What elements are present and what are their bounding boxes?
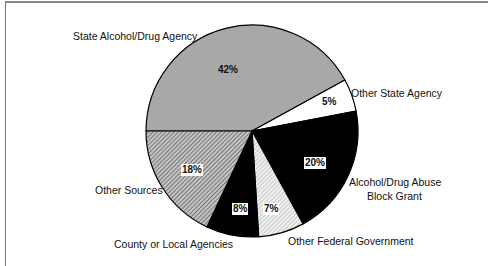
label-county-local: County or Local Agencies	[114, 238, 233, 251]
label-block-grant-1: Alcohol/Drug Abuse	[349, 176, 441, 189]
label-state-agency: State Alcohol/Drug Agency	[73, 30, 197, 43]
percent-county-local: 8%	[232, 203, 248, 215]
label-other-state: Other State Agency	[351, 87, 442, 100]
percent-state-agency: 42%	[218, 64, 238, 76]
percent-block-grant: 20%	[304, 157, 326, 169]
percent-other-sources: 18%	[181, 164, 203, 176]
percent-other-federal: 7%	[263, 203, 279, 215]
label-other-federal: Other Federal Government	[288, 235, 413, 248]
label-block-grant-2: Block Grant	[367, 190, 422, 203]
percent-other-state: 5%	[322, 96, 336, 108]
label-other-sources: Other Sources	[95, 184, 163, 197]
